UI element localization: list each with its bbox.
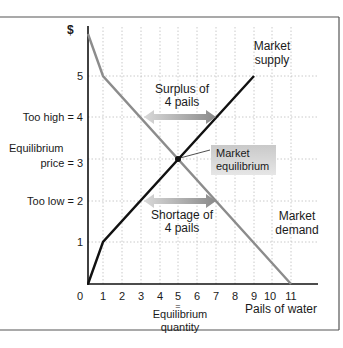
x-tick-9: 9 <box>251 290 257 302</box>
x-tick-11: 11 <box>285 290 296 302</box>
y-tick-4: Too high = 4 <box>23 111 83 123</box>
x-tick-3: 3 <box>138 290 144 302</box>
x-tick-7: 7 <box>213 290 219 302</box>
demand-label-line2: demand <box>275 223 318 237</box>
demand-label-line1: Market <box>279 209 316 223</box>
x-axis-labels: 0 1 2 3 4 5 6 7 8 9 10 11 = Equilibrium … <box>77 290 317 333</box>
x-tick-4: 4 <box>157 290 163 302</box>
shortage-label-line1: Shortage of <box>151 208 214 222</box>
y-tick-5: 5 <box>77 70 83 82</box>
surplus-label-line2: 4 pails <box>165 95 200 109</box>
eq-quantity-line1: Equilibrium <box>153 308 207 320</box>
y-tick-3: price = 3 <box>41 157 84 169</box>
equilibrium-label-line2: equilibrium <box>216 160 269 172</box>
equilibrium-annotation: Market equilibrium <box>175 145 276 175</box>
eq-quantity-line2: quantity <box>161 321 200 333</box>
x-tick-0: 0 <box>77 290 83 302</box>
supply-label-line1: Market <box>254 39 291 53</box>
x-tick-6: 6 <box>194 290 200 302</box>
y-axis-title: $ <box>67 23 74 37</box>
x-tick-10: 10 <box>264 290 276 302</box>
x-tick-2: 2 <box>119 290 125 302</box>
equilibrium-label-line1: Market <box>216 147 250 159</box>
x-tick-8: 8 <box>232 290 238 302</box>
supply-demand-chart: $ 5 Too high = 4 Equilibrium price = 3 T… <box>0 0 343 348</box>
x-tick-1: 1 <box>100 290 106 302</box>
surplus-arrow <box>144 110 216 124</box>
equilibrium-point <box>175 156 181 162</box>
supply-label-line2: supply <box>255 53 290 67</box>
surplus-label-line1: Surplus of <box>155 82 210 96</box>
y-tick-3-line1: Equilibrium <box>9 142 63 154</box>
x-axis-title: Pails of water <box>245 302 317 316</box>
shortage-label-line2: 4 pails <box>165 221 200 235</box>
shortage-arrow <box>144 194 216 208</box>
y-axis-labels: $ 5 Too high = 4 Equilibrium price = 3 T… <box>9 23 83 248</box>
y-tick-1: 1 <box>77 236 83 248</box>
y-tick-2: Too low = 2 <box>27 195 83 207</box>
